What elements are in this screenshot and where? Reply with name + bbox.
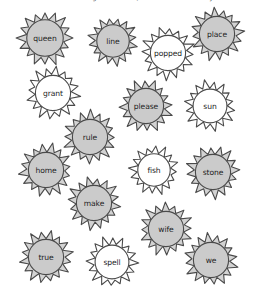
sun-word-label: sun xyxy=(203,102,217,111)
sun-word-label: fish xyxy=(147,166,160,175)
sun-word-label: grant xyxy=(43,89,63,98)
sun-shape[interactable]: stone xyxy=(184,143,242,201)
sun-shape[interactable]: spell xyxy=(84,234,140,290)
sun-word-label: please xyxy=(134,102,159,111)
sun-word-label: spell xyxy=(103,258,120,267)
sun-shape[interactable]: true xyxy=(17,228,75,286)
sun-word-label: make xyxy=(84,199,105,208)
sun-word-label: wife xyxy=(158,225,174,234)
worksheet-instruction: If the word has the long vowel sound, ma… xyxy=(0,0,254,2)
sun-word-label: popped xyxy=(154,49,182,58)
sun-word-label: queen xyxy=(33,34,57,43)
sun-word-label: line xyxy=(106,37,120,46)
sun-word-label: place xyxy=(207,30,227,39)
sun-shape[interactable]: place xyxy=(188,5,246,63)
sun-word-label: rule xyxy=(83,133,98,142)
sun-word-label: stone xyxy=(203,168,224,177)
sun-word-label: true xyxy=(38,253,54,262)
sun-shape[interactable]: queen xyxy=(15,8,75,68)
sun-shape[interactable]: we xyxy=(182,231,240,289)
sun-word-label: home xyxy=(35,166,57,175)
sun-word-label: we xyxy=(206,256,217,265)
sun-shape[interactable]: line xyxy=(86,14,140,68)
worksheet-page: If the word has the long vowel sound, ma… xyxy=(0,0,254,297)
sun-shape[interactable]: please xyxy=(117,77,175,135)
sun-shape[interactable]: make xyxy=(65,174,123,232)
sun-shape[interactable]: fish xyxy=(127,143,181,197)
sun-shape[interactable]: sun xyxy=(182,78,238,134)
